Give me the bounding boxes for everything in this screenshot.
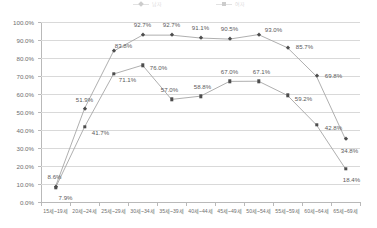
legend-label-series-2: 여자 (235, 1, 245, 7)
data-point-label: 42.8% (325, 123, 342, 130)
y-axis-tick-label: 20.0% (0, 163, 34, 170)
x-axis-tick-label: 30세~34세 (130, 208, 154, 215)
y-axis-tick-label: 70.0% (0, 73, 34, 80)
y-axis-tick-label: 90.0% (0, 37, 34, 44)
y-axis-tick-label: 50.0% (0, 109, 34, 116)
x-axis-tick-label: 25세~29세 (101, 208, 125, 215)
legend-swatch-icon (133, 4, 149, 5)
x-axis-tick-label: 60세~64세 (304, 208, 328, 215)
data-point-label: 85.7% (296, 42, 313, 49)
data-point-label: 67.1% (253, 68, 270, 75)
data-point-marker (286, 94, 289, 97)
data-point-label: 92.7% (163, 21, 180, 28)
x-axis-tick-mark (99, 203, 100, 206)
data-point-label: 67.0% (221, 68, 238, 75)
x-axis-tick-label: 20세~24세 (72, 208, 96, 215)
legend-item-series-1: 남자 (133, 1, 162, 7)
data-point-label: 58.8% (194, 83, 211, 90)
data-point-label: 18.4% (343, 175, 360, 182)
data-point-label: 59.2% (295, 95, 312, 102)
chart-legend: 남자 여자 (0, 0, 377, 7)
data-point-label: 69.8% (325, 72, 342, 79)
x-axis-tick-mark (70, 203, 71, 206)
data-point-marker (83, 125, 86, 128)
x-axis-tick-mark (302, 203, 303, 206)
data-point-marker (112, 72, 115, 75)
data-point-marker (228, 80, 231, 83)
data-point-label: 7.9% (59, 193, 73, 200)
legend-swatch-icon (216, 4, 232, 5)
data-point-marker (170, 98, 173, 101)
plot-area: 8.6%51.9%83.8%92.7%92.7%91.1%90.5%93.0%8… (41, 22, 360, 202)
x-axis-tick-mark (157, 203, 158, 206)
y-axis-tick-label: 100.0% (0, 19, 34, 26)
data-point-marker (344, 167, 347, 170)
x-axis-tick-mark (273, 203, 274, 206)
data-point-marker (257, 80, 260, 83)
data-point-marker (141, 63, 144, 66)
legend-label-series-1: 남자 (152, 1, 162, 7)
x-axis-tick-label: 40세~44세 (188, 208, 212, 215)
data-point-label: 57.0% (161, 86, 178, 93)
x-axis-tick-label: 45세~49세 (217, 208, 241, 215)
data-point-label: 90.5% (221, 25, 238, 32)
x-axis-tick-mark (41, 203, 42, 206)
x-axis-line (41, 202, 361, 203)
data-point-label: 8.6% (48, 172, 62, 179)
data-point-label: 34.8% (341, 147, 358, 154)
x-axis-tick-label: 55세~59세 (275, 208, 299, 215)
x-axis-tick-mark (331, 203, 332, 206)
y-axis-tick-label: 10.0% (0, 181, 34, 188)
y-axis-tick-label: 80.0% (0, 55, 34, 62)
x-axis-tick-mark (244, 203, 245, 206)
y-axis-tick-label: 30.0% (0, 145, 34, 152)
y-axis-tick-label: 40.0% (0, 127, 34, 134)
y-axis-tick-label: 60.0% (0, 91, 34, 98)
chart-container: 남자 여자 100.0%90.0%80.0%70.0%60.0%50.0%40.… (0, 0, 377, 228)
x-axis-tick-label: 35세~39세 (159, 208, 183, 215)
x-axis-tick-label: 65세~69세 (333, 208, 357, 215)
data-point-label: 41.7% (92, 128, 109, 135)
data-point-label: 92.7% (134, 21, 151, 28)
data-point-marker (315, 123, 318, 126)
legend-item-series-2: 여자 (216, 1, 245, 7)
data-point-label: 51.9% (76, 95, 93, 102)
x-axis-tick-mark (215, 203, 216, 206)
y-axis-tick-label: 0.0% (0, 199, 34, 206)
data-point-label: 71.1% (119, 76, 136, 83)
data-point-label: 93.0% (265, 25, 282, 32)
data-point-marker (199, 94, 202, 97)
data-point-label: 91.1% (192, 24, 209, 31)
x-axis-tick-mark (186, 203, 187, 206)
data-point-marker (54, 186, 57, 189)
x-axis-tick-label: 15세~19세 (43, 208, 67, 215)
x-axis-tick-mark (360, 203, 361, 206)
x-axis-tick-label: 50세~54세 (246, 208, 270, 215)
data-point-label: 76.0% (150, 64, 167, 71)
x-axis-tick-mark (128, 203, 129, 206)
data-point-label: 83.8% (115, 42, 132, 49)
